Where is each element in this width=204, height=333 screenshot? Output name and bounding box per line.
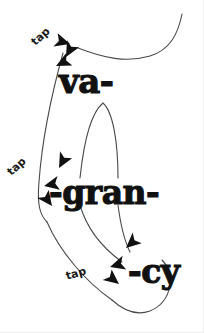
syllable-va: va- xyxy=(59,64,113,98)
stroke-descend-a xyxy=(80,205,122,262)
arrow-mid-a xyxy=(53,151,73,171)
syllable-cy: -cy xyxy=(128,255,179,288)
stroke-left-lower xyxy=(47,222,112,300)
stroke-arch xyxy=(80,103,118,178)
stroke-top-sweep xyxy=(78,14,182,59)
arrow-bot-c xyxy=(103,269,123,289)
artwork-canvas: va- -gran- -cy tap tap tap xyxy=(0,0,204,333)
syllable-gran: -gran- xyxy=(49,176,159,209)
